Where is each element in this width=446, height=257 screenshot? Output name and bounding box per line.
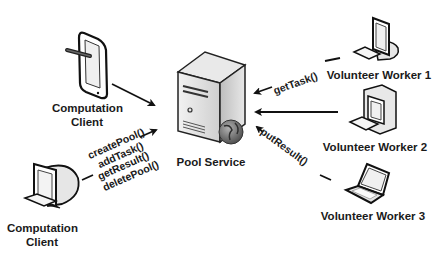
client-desktop-label-line1: Computation: [7, 221, 77, 235]
worker2-computer-icon: [350, 85, 396, 134]
connector-worker1: [325, 58, 340, 61]
worker3-laptop-icon: [346, 164, 389, 203]
client-tablet-label-line2: Client: [52, 115, 122, 129]
worker2-label: Volunteer Worker 2: [316, 140, 434, 154]
worker1-computer-icon: [354, 18, 398, 60]
client-desktop-label-line2: Client: [7, 235, 77, 249]
globe-icon: [219, 120, 243, 144]
client-tablet-label-line1: Computation: [52, 101, 122, 115]
desktop-computer-icon: [25, 164, 79, 208]
tablet-icon: [67, 33, 107, 99]
arrow-worker1-to-server: [255, 87, 272, 93]
worker1-label: Volunteer Worker 1: [320, 68, 438, 82]
client-tablet-label: Computation Client: [52, 101, 122, 129]
client-desktop-label: Computation Client: [7, 221, 77, 249]
worker3-label: Volunteer Worker 3: [314, 209, 432, 223]
connector-desktop-client: [82, 175, 93, 180]
connector-worker3: [320, 175, 331, 180]
pool-service-label: Pool Service: [174, 155, 248, 169]
